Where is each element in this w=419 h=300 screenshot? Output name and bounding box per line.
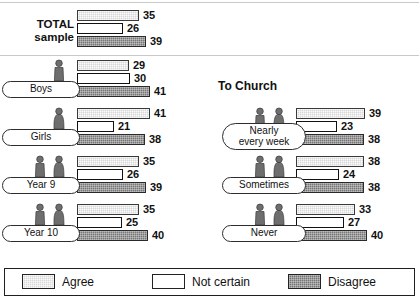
- bar-row-never-notcertain: 27: [296, 217, 378, 228]
- bar-nearly-agree: [296, 108, 365, 119]
- bar-value-year9-agree: 35: [143, 154, 155, 168]
- bar-row-year10-notcertain: 25: [77, 217, 156, 228]
- category-pill-label: Sometimes: [239, 180, 289, 191]
- bar-row-sometimes-notcertain: 24: [296, 169, 373, 180]
- bar-year9-notcertain: [77, 169, 123, 180]
- bar-never-agree: [296, 204, 355, 215]
- bar-value-year9-disagree: 39: [150, 180, 162, 194]
- legend-swatch-agree: [22, 274, 55, 289]
- category-pill-label: Never: [251, 228, 278, 239]
- bar-total-agree: [77, 10, 139, 21]
- bar-value-never-disagree: 40: [371, 228, 383, 242]
- bar-value-total-disagree: 39: [150, 34, 162, 48]
- bar-row-boys-notcertain: 30: [77, 73, 164, 84]
- bar-girls-notcertain: [77, 121, 114, 132]
- total-sample-label: TOTALsample: [18, 18, 74, 43]
- bar-sometimes-agree: [296, 156, 364, 167]
- bar-row-total-agree: 35: [77, 10, 173, 21]
- bar-boys-disagree: [77, 86, 150, 97]
- bar-total-notcertain: [77, 23, 123, 34]
- bar-boys-agree: [77, 60, 129, 71]
- bar-value-girls-notcertain: 21: [118, 119, 130, 133]
- bar-row-nearly-disagree: 38: [296, 134, 398, 145]
- bar-row-year9-agree: 35: [77, 156, 173, 167]
- bar-row-girls-notcertain: 21: [77, 121, 148, 132]
- bar-row-total-notcertain: 26: [77, 23, 157, 34]
- bar-never-disagree: [296, 230, 367, 241]
- category-pill-year10[interactable]: Year 10: [2, 225, 80, 242]
- bar-value-year10-disagree: 40: [152, 228, 164, 242]
- bar-girls-disagree: [77, 134, 145, 145]
- category-pill-label: Year 9: [27, 180, 56, 191]
- legend-item-disagree: Disagree: [288, 274, 376, 289]
- bar-year10-notcertain: [77, 217, 122, 228]
- category-pill-nearly[interactable]: Nearlyevery week: [222, 123, 306, 150]
- bar-value-sometimes-notcertain: 24: [343, 167, 355, 181]
- bar-value-year10-agree: 35: [143, 202, 155, 216]
- bar-value-year9-notcertain: 26: [127, 167, 139, 181]
- bar-value-sometimes-disagree: 38: [368, 180, 380, 194]
- bar-row-never-disagree: 40: [296, 230, 401, 241]
- bar-value-total-notcertain: 26: [127, 21, 139, 35]
- bar-value-nearly-agree: 39: [369, 106, 381, 120]
- bar-row-boys-disagree: 41: [77, 86, 184, 97]
- bar-value-nearly-notcertain: 23: [341, 119, 353, 133]
- bar-sometimes-disagree: [296, 182, 364, 193]
- total-label-line2: sample: [34, 31, 74, 43]
- category-pill-year9[interactable]: Year 9: [2, 177, 80, 194]
- bar-row-sometimes-disagree: 38: [296, 182, 398, 193]
- bar-row-year9-disagree: 39: [77, 182, 180, 193]
- legend-swatch-notcertain: [152, 274, 185, 289]
- bar-row-nearly-agree: 39: [296, 108, 399, 119]
- section-heading-to-church: To Church: [218, 79, 277, 93]
- bar-value-total-agree: 35: [143, 8, 155, 22]
- bar-year9-agree: [77, 156, 139, 167]
- bar-value-sometimes-agree: 38: [368, 154, 380, 168]
- legend-item-notcertain: Not certain: [152, 274, 250, 289]
- bar-value-year10-notcertain: 25: [126, 215, 138, 229]
- bar-value-boys-disagree: 41: [154, 84, 166, 98]
- bar-row-nearly-notcertain: 23: [296, 121, 371, 132]
- bar-value-never-notcertain: 27: [348, 215, 360, 229]
- bar-row-sometimes-agree: 38: [296, 156, 398, 167]
- bar-year9-disagree: [77, 182, 146, 193]
- bar-row-boys-agree: 29: [77, 60, 163, 71]
- category-pill-label: Boys: [30, 84, 52, 95]
- bar-value-girls-disagree: 38: [149, 132, 161, 146]
- bar-value-nearly-disagree: 38: [368, 132, 380, 146]
- bar-row-never-agree: 33: [296, 204, 389, 215]
- bar-row-girls-disagree: 38: [77, 134, 179, 145]
- bar-value-boys-agree: 29: [133, 58, 145, 72]
- bar-year10-disagree: [77, 230, 148, 241]
- category-pill-boys[interactable]: Boys: [2, 81, 80, 98]
- bar-value-boys-notcertain: 30: [134, 71, 146, 85]
- category-pill-label: Year 10: [24, 228, 58, 239]
- bar-value-girls-agree: 41: [154, 106, 166, 120]
- separator-rule-1: [0, 55, 419, 56]
- bar-row-year10-agree: 35: [77, 204, 173, 215]
- bar-nearly-disagree: [296, 134, 364, 145]
- chart-canvas: 352639TOTALsample293041Boys412138Girls35…: [0, 0, 419, 300]
- category-pill-label: Girls: [31, 132, 52, 143]
- bar-girls-agree: [77, 108, 150, 119]
- legend-label-notcertain: Not certain: [192, 275, 250, 289]
- legend-label-disagree: Disagree: [328, 275, 376, 289]
- legend-swatch-disagree: [288, 274, 321, 289]
- category-pill-girls[interactable]: Girls: [2, 129, 80, 146]
- total-label-line1: TOTAL: [37, 18, 74, 30]
- bar-row-total-disagree: 39: [77, 36, 180, 47]
- bar-total-disagree: [77, 36, 146, 47]
- legend-item-agree: Agree: [22, 274, 94, 289]
- bar-row-year10-disagree: 40: [77, 230, 182, 241]
- bar-row-girls-agree: 41: [77, 108, 184, 119]
- separator-rule-0: [0, 2, 419, 3]
- bar-year10-agree: [77, 204, 139, 215]
- bar-row-year9-notcertain: 26: [77, 169, 157, 180]
- category-pill-label: Nearlyevery week: [239, 126, 290, 147]
- legend-label-agree: Agree: [62, 275, 94, 289]
- category-pill-sometimes[interactable]: Sometimes: [222, 177, 306, 194]
- bar-boys-notcertain: [77, 73, 130, 84]
- category-pill-never[interactable]: Never: [222, 225, 306, 242]
- bar-value-never-agree: 33: [359, 202, 371, 216]
